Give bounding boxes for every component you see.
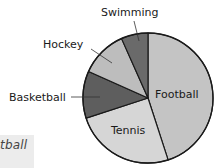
cropped-text-fragment: tball: [0, 135, 34, 168]
label-tennis: Tennis: [110, 124, 146, 137]
fragment-text: tball: [0, 138, 27, 152]
label-football: Football: [155, 88, 199, 101]
label-basketball: Basketball: [9, 91, 66, 104]
label-hockey: Hockey: [43, 38, 84, 51]
label-swimming: Swimming: [101, 6, 158, 19]
